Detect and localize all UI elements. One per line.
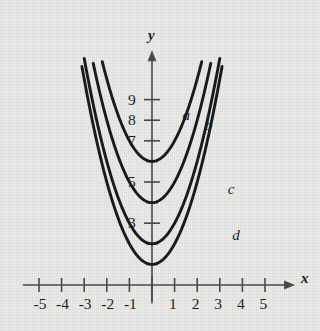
x-tick-label-3: 3 [214, 296, 222, 312]
y-tick-label-9: 9 [128, 92, 136, 108]
x-axis-label: x [301, 271, 309, 286]
y-tick-label-3: 3 [128, 215, 136, 231]
x-axis-arrow [284, 281, 295, 290]
y-tick-label-5: 5 [128, 174, 136, 190]
x-tick-label-4: 4 [237, 296, 245, 312]
curve-label-d: d [232, 228, 240, 243]
x-tick-label-neg2: -2 [101, 296, 114, 312]
x-tick-label-1: 1 [169, 296, 177, 312]
figure-canvas: -5-4-3-2-11234598753abcdxy [0, 0, 320, 331]
y-axis-label: y [148, 28, 155, 43]
axes-group [23, 50, 295, 303]
x-tick-label-5: 5 [260, 296, 268, 312]
curve-label-b: b [205, 118, 213, 133]
x-tick-label-neg5: -5 [34, 296, 47, 312]
curve-label-a: a [183, 108, 191, 123]
curve-label-c: c [228, 182, 235, 197]
y-axis-arrow [148, 50, 157, 61]
y-tick-label-8: 8 [128, 112, 136, 128]
x-tick-label-neg4: -4 [56, 296, 69, 312]
x-tick-label-neg1: -1 [124, 296, 137, 312]
y-tick-label-7: 7 [128, 133, 136, 149]
x-tick-label-neg3: -3 [79, 296, 92, 312]
parabola-plot [0, 0, 320, 331]
x-tick-label-2: 2 [192, 296, 200, 312]
